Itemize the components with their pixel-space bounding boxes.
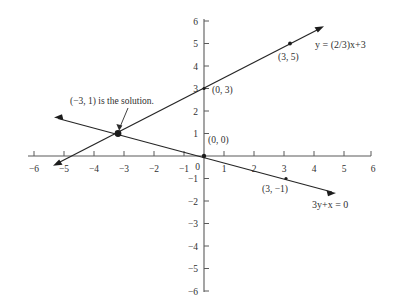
y-tick-label--3: −3 [188,219,198,229]
graph-svg: −6 −5 −4 −3 −2 −1 1 2 3 4 5 6 6 5 4 3 2 … [0,0,398,308]
y-tick-label--1: −1 [188,174,198,184]
x-tick-label-3: 3 [282,164,287,174]
x-tick-label-2: 2 [252,164,257,174]
line-2-point-3-neg1-marker [284,177,287,180]
line-1-point-3-5-marker [288,42,292,46]
line-1-arrowhead-start [53,159,63,165]
line-1-equation-label: y = (2/3)x+3 [315,39,366,51]
point-label-3-neg1: (3, −1) [262,184,288,195]
origin-point-marker [202,154,206,158]
x-tick-label-1: 1 [222,164,227,174]
solution-arrowhead [116,124,122,131]
line-2-equation-label: 3y+x = 0 [312,199,348,210]
x-tick-label-5: 5 [342,164,347,174]
x-tick-label--5: −5 [59,164,69,174]
x-tick-label--3: −3 [119,164,129,174]
solution-point-marker [115,130,122,137]
point-label-3-5: (3, 5) [278,52,299,63]
x-tick-label--1: −1 [179,164,189,174]
x-tick-label--2: −2 [149,164,159,174]
y-tick-label-4: 4 [193,62,198,72]
y-tick-label--2: −2 [188,197,198,207]
y-tick-label--5: −5 [188,264,198,274]
y-tick-label-5: 5 [193,39,198,49]
y-tick-label-2: 2 [193,107,198,117]
x-tick-label--4: −4 [89,164,99,174]
x-tick-label--6: −6 [29,164,39,174]
axes-group [28,19,371,292]
y-tick-label-1: 1 [193,129,198,139]
x-axis-tick-labels: −6 −5 −4 −3 −2 −1 1 2 3 4 5 6 [29,164,376,174]
origin-label: 0 [195,162,200,172]
point-label-0-0: (0, 0) [208,135,229,146]
x-tick-label-4: 4 [312,164,317,174]
coordinate-plane-figure: −6 −5 −4 −3 −2 −1 1 2 3 4 5 6 6 5 4 3 2 … [0,0,398,308]
figure-text-labels: (−3, 1) is the solution. y = (2/3)x+3 3y… [70,39,366,210]
y-tick-label--6: −6 [188,287,198,297]
x-tick-label-6: 6 [371,164,376,174]
point-label-0-3: (0, 3) [212,85,233,96]
line-1-arrowhead-end [315,26,325,32]
line-1-point-0-3-marker [202,87,205,90]
y-tick-label--4: −4 [188,242,198,252]
solution-note-label: (−3, 1) is the solution. [70,96,154,107]
y-tick-label-6: 6 [193,17,198,27]
